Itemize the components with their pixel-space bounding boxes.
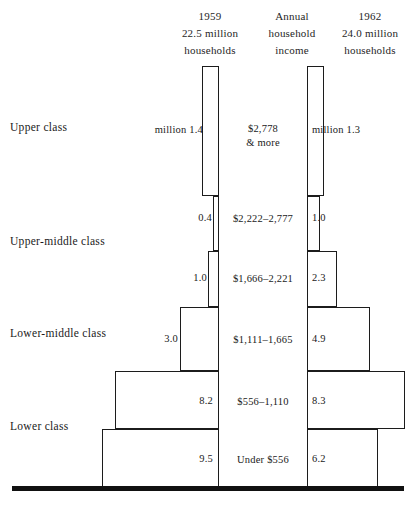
value-1959-lower-upper: 8.2 [150, 395, 213, 406]
value-1959-upper: million 1.4 [125, 124, 203, 135]
column-header-1962: 1962 24.0 million households [310, 8, 413, 59]
income-band-upper-line1: $2,778 [223, 122, 303, 136]
income-band-2-line1: $2,222–2,777 [221, 212, 305, 226]
income-band-3: $1,666–2,221 [221, 272, 305, 286]
bar-1959-lower-middle [180, 307, 219, 371]
income-band-2: $2,222–2,777 [221, 212, 305, 226]
income-band-6-line1: Under $556 [221, 453, 305, 467]
income-band-3-line1: $1,666–2,221 [221, 272, 305, 286]
class-label-upper-middle: Upper-middle class [10, 235, 105, 247]
header-year-right: 1962 [310, 8, 413, 25]
income-band-5: $556–1,110 [221, 395, 305, 409]
class-label-lower: Lower class [10, 420, 69, 432]
income-band-6: Under $556 [221, 453, 305, 467]
header-unit-right: households [310, 42, 413, 59]
value-1962-lower-upper: 8.3 [312, 395, 372, 406]
bar-1962-upper-second [307, 196, 320, 251]
class-label-upper: Upper class [10, 121, 67, 133]
value-1959-lower-middle: 3.0 [130, 333, 178, 344]
value-1959-lower: 9.5 [150, 453, 213, 464]
income-band-upper-line2: & more [223, 136, 303, 150]
income-band-4: $1,111–1,665 [221, 333, 305, 347]
value-1962-upper-second: 1.0 [312, 212, 372, 223]
value-1959-upper-second: 0.4 [150, 212, 212, 223]
income-band-4-line1: $1,111–1,665 [221, 333, 305, 347]
class-label-lower-middle: Lower-middle class [10, 327, 106, 339]
value-1962-upper-middle: 2.3 [312, 272, 372, 283]
income-band-5-line1: $556–1,110 [221, 395, 305, 409]
header-total-right: 24.0 million [310, 25, 413, 42]
bar-1959-upper [202, 66, 219, 196]
income-band-upper: $2,778 & more [223, 122, 303, 150]
bar-1959-upper-second [213, 196, 219, 251]
value-1962-lower: 6.2 [312, 453, 372, 464]
value-1962-upper: million 1.3 [312, 124, 407, 135]
household-income-pyramid-chart: 1959 22.5 million households Annual hous… [0, 0, 413, 505]
baseline-rule [12, 486, 404, 491]
value-1962-lower-middle: 4.9 [312, 333, 372, 344]
value-1959-upper-middle: 1.0 [145, 272, 207, 283]
bar-1959-upper-middle [208, 251, 219, 307]
